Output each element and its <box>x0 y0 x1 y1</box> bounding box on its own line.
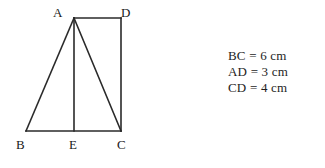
measurement-cd: CD = 4 cm <box>228 80 288 96</box>
vertex-label-d: D <box>121 6 130 19</box>
vertex-label-c: C <box>117 138 126 151</box>
measurement-bc: BC = 6 cm <box>228 48 288 64</box>
segment-AC <box>74 18 121 131</box>
measurement-ad: AD = 3 cm <box>228 64 288 80</box>
segment-AB <box>26 18 74 131</box>
vertex-label-b: B <box>16 138 25 151</box>
vertex-label-a: A <box>53 6 62 19</box>
vertex-label-e: E <box>69 138 77 151</box>
geometry-figure-page: A D B E C BC = 6 cm AD = 3 cm CD = 4 cm <box>0 0 325 168</box>
measurements-list: BC = 6 cm AD = 3 cm CD = 4 cm <box>228 48 288 96</box>
